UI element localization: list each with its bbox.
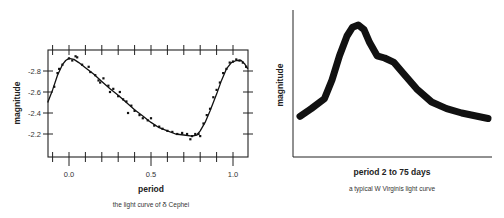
light-curve [300, 25, 488, 119]
chart-caption: a typical W Virginis light curve [349, 185, 436, 193]
y-axis-title: magnitude [275, 63, 285, 106]
x-axis-title: period 2 to 75 days [354, 167, 431, 177]
w-virginis-chart: magnitude period 2 to 75 days a typical … [0, 0, 504, 218]
